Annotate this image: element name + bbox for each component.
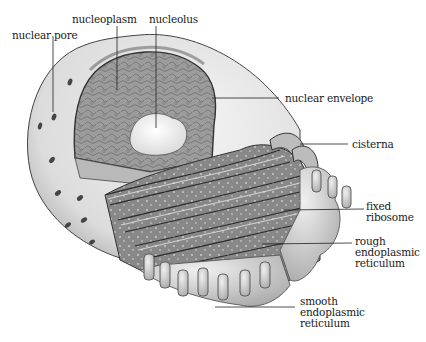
- diagram-canvas: nuclear pore nucleoplasm nucleolus nucle…: [0, 0, 426, 342]
- cell-illustration: [0, 0, 426, 342]
- label-nuclear-pore: nuclear pore: [12, 30, 77, 41]
- label-fixed-ribosome: fixed ribosome: [366, 201, 414, 223]
- nucleolus: [130, 114, 187, 156]
- label-nucleoplasm: nucleoplasm: [72, 14, 137, 25]
- label-line: reticulum: [300, 318, 365, 329]
- label-nucleolus: nucleolus: [149, 14, 198, 25]
- label-line: reticulum: [355, 258, 420, 269]
- label-line: ribosome: [366, 212, 414, 223]
- label-smooth-er: smooth endoplasmic reticulum: [300, 296, 365, 329]
- label-cisterna: cisterna: [352, 139, 394, 150]
- label-rough-er: rough endoplasmic reticulum: [355, 236, 420, 269]
- label-nuclear-envelope: nuclear envelope: [285, 93, 373, 104]
